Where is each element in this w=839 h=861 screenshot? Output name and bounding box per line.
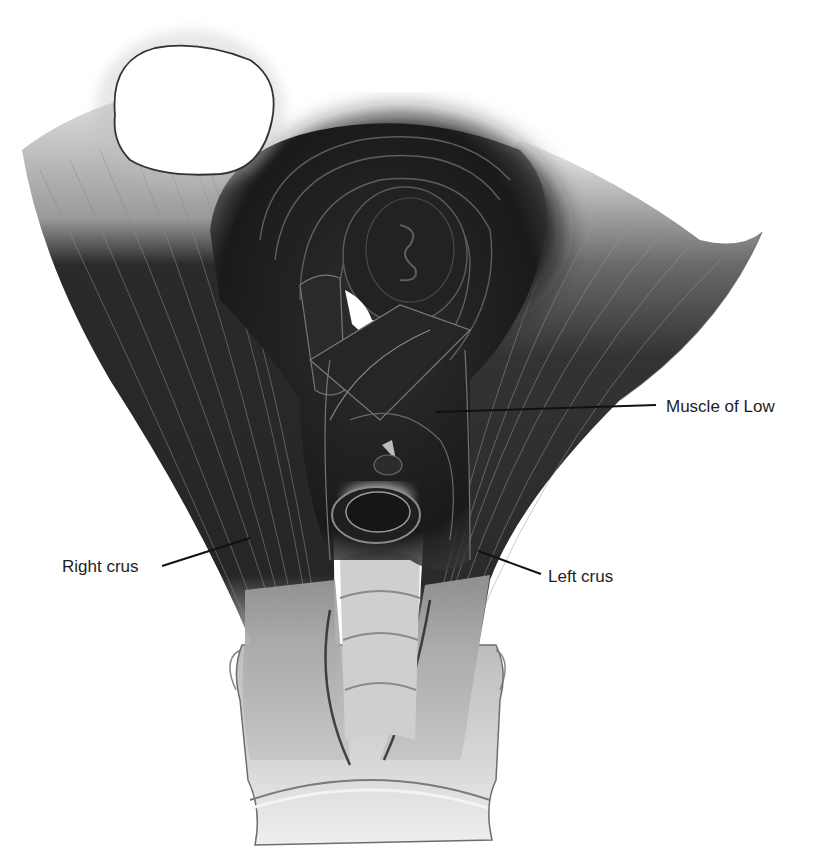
- diaphragm-crura-drawing: [0, 0, 839, 861]
- label-right-crus: Right crus: [62, 557, 139, 577]
- label-muscle-of-low: Muscle of Low: [666, 397, 775, 417]
- spine-between-crura: [340, 550, 420, 740]
- label-left-crus: Left crus: [548, 567, 613, 587]
- anatomical-illustration: Muscle of Low Right crus Left crus: [0, 0, 839, 861]
- caval-foramen: [95, 30, 285, 190]
